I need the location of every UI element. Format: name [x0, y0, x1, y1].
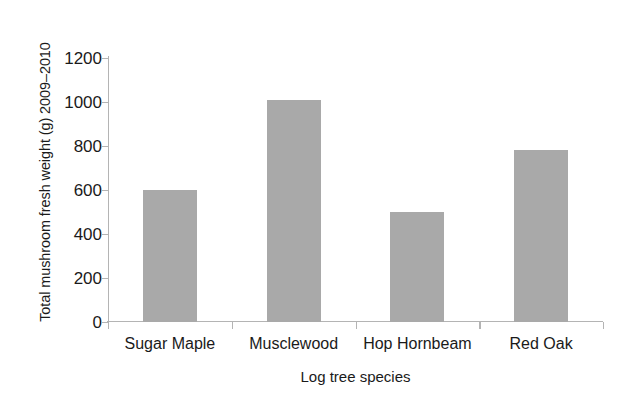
y-axis-tick-label: 800 — [44, 138, 102, 155]
bar — [267, 100, 321, 322]
x-axis-tick-label: Musclewood — [249, 332, 338, 356]
bar — [390, 212, 444, 322]
y-axis-tick-label: 200 — [44, 270, 102, 287]
y-axis-tick-mark — [102, 102, 108, 103]
x-axis-tick-label: Sugar Maple — [125, 332, 216, 356]
x-axis-tick-mark — [108, 322, 109, 329]
x-axis-tick-mark — [232, 322, 233, 329]
x-axis-tick-mark — [356, 322, 357, 329]
y-axis-tick-labels: 020040060080010001200 — [44, 0, 102, 414]
y-axis-tick-label: 0 — [44, 314, 102, 331]
x-axis-tick-labels: Sugar MapleMusclewoodHop HornbeamRed Oak — [108, 332, 603, 358]
bar — [143, 190, 197, 322]
y-axis-tick-label: 600 — [44, 182, 102, 199]
x-axis-tick-label: Red Oak — [510, 332, 573, 356]
bar — [514, 150, 568, 322]
plot-area — [108, 58, 603, 322]
x-axis-tick-mark — [479, 322, 480, 329]
x-axis-title: Log tree species — [108, 366, 603, 388]
y-axis-tick-label: 400 — [44, 226, 102, 243]
y-axis-tick-mark — [102, 146, 108, 147]
bar-chart-figure: Total mushroom fresh weight (g) 2009–201… — [0, 0, 638, 414]
x-axis-tick-mark — [603, 322, 604, 329]
y-axis-tick-mark — [102, 234, 108, 235]
y-axis-tick-label: 1200 — [44, 50, 102, 67]
y-axis-tick-label: 1000 — [44, 94, 102, 111]
x-axis-tick-label: Hop Hornbeam — [363, 332, 472, 356]
y-axis-tick-mark — [102, 190, 108, 191]
y-axis-tick-mark — [102, 58, 108, 59]
y-axis-tick-mark — [102, 278, 108, 279]
